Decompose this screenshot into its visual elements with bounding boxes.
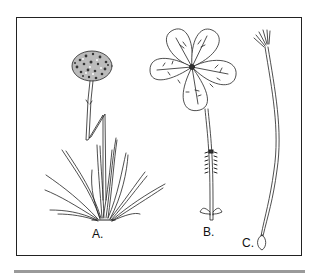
filament-tuft-icon [254,30,270,47]
five-petal-flower-icon [150,29,236,111]
flower-b-illustration [150,29,236,220]
botanical-illustration: A. B. [0,0,322,274]
bulb-base-icon [258,235,266,250]
flower-head-icon [72,51,112,81]
stalk-c-illustration [254,30,279,250]
hairy-band-icon [205,150,217,173]
divider-rule [14,270,305,273]
label-b: B. [203,225,214,239]
label-c: C. [242,236,254,250]
label-a: A. [92,227,103,241]
plant-a-illustration [45,51,165,221]
